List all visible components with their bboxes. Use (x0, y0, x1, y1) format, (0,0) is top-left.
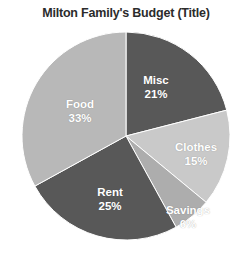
pie-slice-group (22, 32, 230, 240)
pie-chart: Milton Family's Budget (Title) Misc 21% … (0, 0, 252, 258)
pie-svg (0, 0, 252, 258)
pie-graphic: Misc 21% Clothes 15% Savings 6% Rent 25%… (0, 0, 252, 258)
